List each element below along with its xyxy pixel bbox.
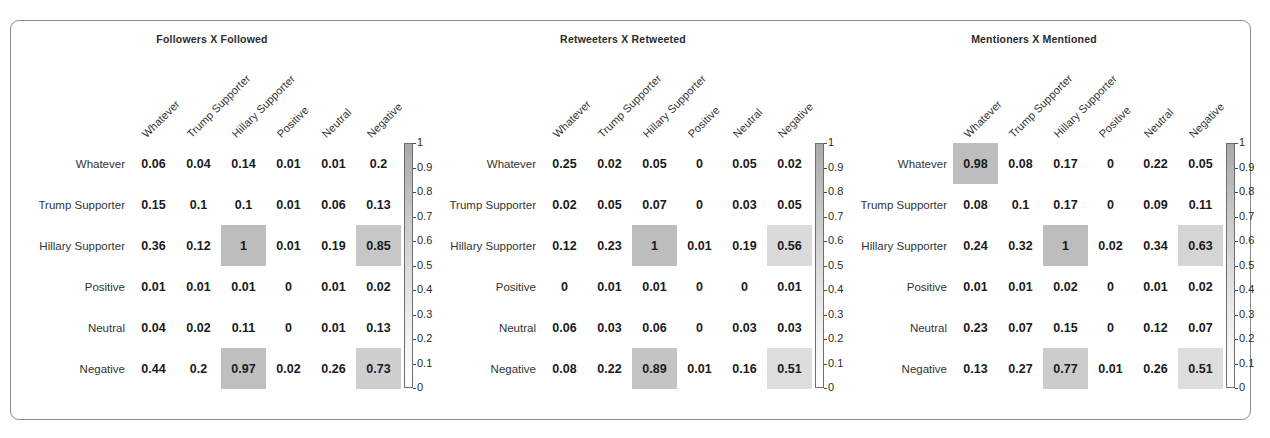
heatmap-cell[interactable]: 0.06 (311, 184, 356, 225)
heatmap-cell[interactable]: 0 (677, 184, 722, 225)
heatmap-cell[interactable]: 0.06 (542, 307, 587, 348)
heatmap-cell[interactable]: 0.01 (266, 225, 311, 266)
heatmap-cell[interactable]: 0.73 (356, 348, 401, 389)
heatmap-cell[interactable]: 0.08 (953, 184, 998, 225)
heatmap-cell[interactable]: 0.04 (131, 307, 176, 348)
heatmap-cell[interactable]: 0.01 (266, 143, 311, 184)
heatmap-cell[interactable]: 0.01 (1088, 348, 1133, 389)
heatmap-cell[interactable]: 0.51 (767, 348, 812, 389)
heatmap-cell[interactable]: 0.02 (1178, 266, 1223, 307)
heatmap-cell[interactable]: 0.01 (998, 266, 1043, 307)
heatmap-cell[interactable]: 0.1 (221, 184, 266, 225)
heatmap-cell[interactable]: 0.27 (998, 348, 1043, 389)
heatmap-cell[interactable]: 0 (677, 143, 722, 184)
heatmap-cell[interactable]: 0.23 (587, 225, 632, 266)
heatmap-cell[interactable]: 0.04 (176, 143, 221, 184)
heatmap-cell[interactable]: 0.01 (587, 266, 632, 307)
heatmap-cell[interactable]: 1 (1043, 225, 1088, 266)
heatmap-cell[interactable]: 0.22 (1133, 143, 1178, 184)
heatmap-cell[interactable]: 0.01 (767, 266, 812, 307)
heatmap-cell[interactable]: 0.03 (722, 184, 767, 225)
heatmap-cell[interactable]: 0.01 (677, 225, 722, 266)
heatmap-cell[interactable]: 0.05 (767, 184, 812, 225)
heatmap-cell[interactable]: 1 (632, 225, 677, 266)
heatmap-cell[interactable]: 0.63 (1178, 225, 1223, 266)
heatmap-cell[interactable]: 0.01 (311, 307, 356, 348)
heatmap-cell[interactable]: 0.22 (587, 348, 632, 389)
heatmap-cell[interactable]: 0.01 (632, 266, 677, 307)
heatmap-cell[interactable]: 0.89 (632, 348, 677, 389)
heatmap-cell[interactable]: 0.2 (176, 348, 221, 389)
heatmap-cell[interactable]: 0.09 (1133, 184, 1178, 225)
heatmap-cell[interactable]: 0 (677, 307, 722, 348)
heatmap-cell[interactable]: 0.1 (998, 184, 1043, 225)
heatmap-cell[interactable]: 0.12 (542, 225, 587, 266)
heatmap-cell[interactable]: 0.17 (1043, 143, 1088, 184)
heatmap-cell[interactable]: 0 (266, 307, 311, 348)
heatmap-cell[interactable]: 0.12 (176, 225, 221, 266)
heatmap-cell[interactable]: 0.32 (998, 225, 1043, 266)
heatmap-cell[interactable]: 0.19 (311, 225, 356, 266)
heatmap-cell[interactable]: 0.01 (677, 348, 722, 389)
heatmap-cell[interactable]: 0.01 (953, 266, 998, 307)
heatmap-cell[interactable]: 0.77 (1043, 348, 1088, 389)
heatmap-cell[interactable]: 0.01 (131, 266, 176, 307)
heatmap-cell[interactable]: 0.01 (311, 143, 356, 184)
heatmap-cell[interactable]: 0.15 (1043, 307, 1088, 348)
heatmap-cell[interactable]: 0.14 (221, 143, 266, 184)
heatmap-cell[interactable]: 0.15 (131, 184, 176, 225)
heatmap-cell[interactable]: 0.2 (356, 143, 401, 184)
heatmap-cell[interactable]: 0.17 (1043, 184, 1088, 225)
heatmap-cell[interactable]: 0.34 (1133, 225, 1178, 266)
heatmap-cell[interactable]: 0 (266, 266, 311, 307)
heatmap-cell[interactable]: 0.03 (767, 307, 812, 348)
heatmap-cell[interactable]: 0.51 (1178, 348, 1223, 389)
heatmap-cell[interactable]: 0.08 (998, 143, 1043, 184)
heatmap-cell[interactable]: 0.11 (1178, 184, 1223, 225)
heatmap-cell[interactable]: 0.02 (767, 143, 812, 184)
heatmap-cell[interactable]: 0.07 (632, 184, 677, 225)
heatmap-cell[interactable]: 0.06 (632, 307, 677, 348)
heatmap-cell[interactable]: 0.02 (1043, 266, 1088, 307)
heatmap-cell[interactable]: 0.07 (1178, 307, 1223, 348)
heatmap-cell[interactable]: 0.13 (356, 307, 401, 348)
heatmap-cell[interactable]: 0.02 (176, 307, 221, 348)
heatmap-cell[interactable]: 0.97 (221, 348, 266, 389)
heatmap-cell[interactable]: 0 (722, 266, 767, 307)
heatmap-cell[interactable]: 0 (1088, 143, 1133, 184)
heatmap-cell[interactable]: 0.12 (1133, 307, 1178, 348)
heatmap-cell[interactable]: 0.13 (356, 184, 401, 225)
heatmap-cell[interactable]: 0.98 (953, 143, 998, 184)
heatmap-cell[interactable]: 0.19 (722, 225, 767, 266)
heatmap-cell[interactable]: 0.07 (998, 307, 1043, 348)
heatmap-cell[interactable]: 0.05 (722, 143, 767, 184)
heatmap-cell[interactable]: 0.44 (131, 348, 176, 389)
heatmap-cell[interactable]: 0.02 (587, 143, 632, 184)
heatmap-cell[interactable]: 0.01 (221, 266, 266, 307)
heatmap-cell[interactable]: 0.02 (1088, 225, 1133, 266)
heatmap-cell[interactable]: 0.16 (722, 348, 767, 389)
heatmap-cell[interactable]: 0.25 (542, 143, 587, 184)
heatmap-cell[interactable]: 0.01 (176, 266, 221, 307)
heatmap-cell[interactable]: 0.56 (767, 225, 812, 266)
heatmap-cell[interactable]: 0.36 (131, 225, 176, 266)
heatmap-cell[interactable]: 0.02 (542, 184, 587, 225)
heatmap-cell[interactable]: 0 (1088, 184, 1133, 225)
heatmap-cell[interactable]: 0 (677, 266, 722, 307)
heatmap-cell[interactable]: 0.13 (953, 348, 998, 389)
heatmap-cell[interactable]: 0 (542, 266, 587, 307)
heatmap-cell[interactable]: 0.05 (1178, 143, 1223, 184)
heatmap-cell[interactable]: 0.01 (1133, 266, 1178, 307)
heatmap-cell[interactable]: 0.23 (953, 307, 998, 348)
heatmap-cell[interactable]: 0.08 (542, 348, 587, 389)
heatmap-cell[interactable]: 0.03 (587, 307, 632, 348)
heatmap-cell[interactable]: 0.85 (356, 225, 401, 266)
heatmap-cell[interactable]: 0.11 (221, 307, 266, 348)
heatmap-cell[interactable]: 0.02 (356, 266, 401, 307)
heatmap-cell[interactable]: 0.05 (632, 143, 677, 184)
heatmap-cell[interactable]: 0.01 (311, 266, 356, 307)
heatmap-cell[interactable]: 0.1 (176, 184, 221, 225)
heatmap-cell[interactable]: 0.26 (1133, 348, 1178, 389)
heatmap-cell[interactable]: 0.03 (722, 307, 767, 348)
heatmap-cell[interactable]: 0.02 (266, 348, 311, 389)
